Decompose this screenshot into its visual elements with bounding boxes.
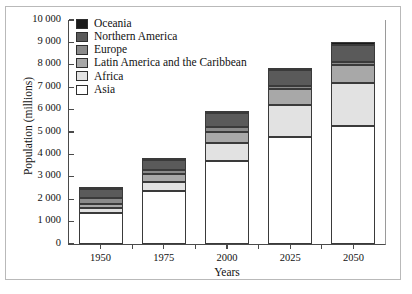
x-tick-label: 1975 <box>153 252 174 263</box>
x-tick-mark <box>100 244 101 249</box>
legend-swatch-icon <box>76 19 88 29</box>
y-tick-label: 7 000 <box>37 80 61 91</box>
x-axis-title: Years <box>68 266 386 278</box>
bar-segment <box>331 65 375 82</box>
x-tick-mark <box>353 244 354 249</box>
bar-segment <box>142 174 186 181</box>
bar-segment <box>79 189 123 198</box>
y-tick-mark <box>69 131 74 132</box>
x-tick-mark-minor <box>132 244 133 249</box>
bar-segment <box>142 191 186 244</box>
bar-segment <box>79 208 123 213</box>
x-tick-mark <box>290 244 291 249</box>
y-tick-label: 3 000 <box>37 169 61 180</box>
bar-2050 <box>331 42 375 244</box>
legend-swatch-icon <box>76 58 88 68</box>
bar-segment <box>331 126 375 244</box>
y-tick-label: 2 000 <box>37 192 61 203</box>
bar-1975 <box>142 158 186 244</box>
y-tick-label: 8 000 <box>37 57 61 68</box>
legend-label: Northern America <box>94 31 177 43</box>
y-tick-mark <box>69 42 74 43</box>
bar-segment <box>142 158 186 160</box>
legend-swatch-icon <box>76 71 88 81</box>
x-tick-mark <box>226 244 227 249</box>
legend-swatch-icon <box>76 45 88 55</box>
x-tick-label: 2000 <box>217 252 238 263</box>
legend-item: Latin America and the Caribbean <box>76 57 291 70</box>
bar-segment <box>205 161 249 244</box>
y-tick-mark <box>69 19 74 20</box>
y-tick-label: 1 000 <box>37 214 61 225</box>
legend-item: Oceania <box>76 17 291 30</box>
bar-2000 <box>205 111 249 244</box>
population-stacked-bar-chart: Population (millions) 01 0002 0003 0004 … <box>0 0 412 294</box>
y-tick-mark <box>69 176 74 177</box>
chart-legend: OceaniaNorthern AmericaEuropeLatin Ameri… <box>76 17 291 96</box>
bar-segment <box>142 160 186 170</box>
y-tick-mark <box>69 64 74 65</box>
legend-label: Europe <box>94 44 127 56</box>
bar-segment <box>268 105 312 137</box>
y-tick-mark <box>69 154 74 155</box>
legend-item: Northern America <box>76 30 291 43</box>
y-tick-label: 6 000 <box>37 102 61 113</box>
legend-item: Africa <box>76 70 291 83</box>
x-tick-mark-minor <box>195 244 196 249</box>
bar-segment <box>331 42 375 45</box>
x-tick-label: 1950 <box>90 252 111 263</box>
bar-segment <box>205 127 249 131</box>
y-tick-mark <box>69 109 74 110</box>
bar-1950 <box>79 188 123 244</box>
bar-segment <box>331 62 375 65</box>
legend-label: Asia <box>94 84 115 96</box>
legend-swatch-icon <box>76 32 88 42</box>
legend-item: Asia <box>76 83 291 96</box>
y-tick-label: 0 <box>56 237 61 248</box>
bar-segment <box>331 45 375 62</box>
bar-segment <box>205 111 249 113</box>
y-tick-label: 10 000 <box>32 13 61 24</box>
legend-label: Africa <box>94 71 123 83</box>
bar-segment <box>79 187 123 189</box>
legend-label: Latin America and the Caribbean <box>94 57 247 69</box>
x-tick-mark-minor <box>321 244 322 249</box>
bar-segment <box>205 113 249 127</box>
x-tick-label: 2050 <box>343 252 364 263</box>
y-tick-label: 4 000 <box>37 147 61 158</box>
bar-segment <box>142 182 186 191</box>
bar-segment <box>79 213 123 244</box>
y-tick-mark <box>69 87 74 88</box>
x-tick-label: 2025 <box>280 252 301 263</box>
x-tick-mark-minor <box>258 244 259 249</box>
x-tick-mark <box>163 244 164 249</box>
bar-segment <box>268 137 312 244</box>
y-axis-title: Population (millions) <box>22 36 34 216</box>
legend-item: Europe <box>76 43 291 56</box>
legend-swatch-icon <box>76 85 88 95</box>
legend-label: Oceania <box>94 18 132 30</box>
y-tick-label: 9 000 <box>37 35 61 46</box>
bar-segment <box>331 83 375 127</box>
y-tick-mark <box>69 243 74 244</box>
bar-segment <box>79 198 123 204</box>
y-tick-label: 5 000 <box>37 125 61 136</box>
bar-segment <box>205 132 249 144</box>
y-tick-mark <box>69 221 74 222</box>
bar-segment <box>79 204 123 208</box>
bar-segment <box>205 143 249 161</box>
y-tick-mark <box>69 199 74 200</box>
bar-segment <box>142 170 186 174</box>
